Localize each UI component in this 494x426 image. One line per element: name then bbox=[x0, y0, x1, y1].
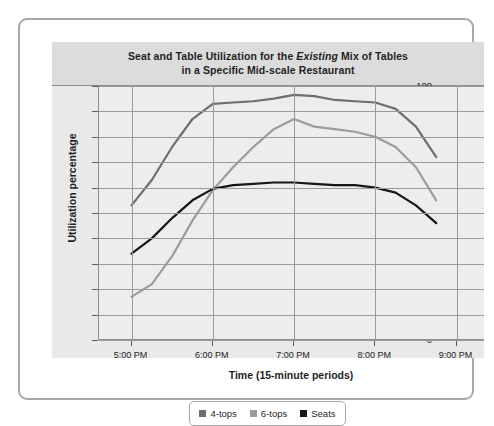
legend-item-seats[interactable]: Seats bbox=[300, 408, 335, 419]
gridline-horizontal bbox=[99, 111, 484, 112]
gridline-horizontal bbox=[99, 188, 484, 189]
y-axis-label: Utilization percentage bbox=[66, 108, 78, 268]
chart-frame: Seat and Table Utilization for the Exist… bbox=[18, 18, 474, 400]
chart-block: Seat and Table Utilization for the Exist… bbox=[52, 42, 484, 358]
gridline-horizontal bbox=[99, 340, 484, 341]
chart-title-part-emphasis: Existing bbox=[296, 50, 338, 62]
legend-item-6-tops[interactable]: 6-tops bbox=[250, 408, 287, 419]
chart-title-line-2: in a Specific Mid-scale Restaurant bbox=[52, 63, 484, 77]
gridline-vertical bbox=[132, 86, 133, 339]
gridline-horizontal bbox=[99, 213, 484, 214]
x-tick-label: 8:00 PM bbox=[339, 350, 409, 360]
gridline-horizontal bbox=[99, 289, 484, 290]
gridline-horizontal bbox=[99, 238, 484, 239]
legend-item-4-tops[interactable]: 4-tops bbox=[199, 408, 236, 419]
chart-title-part-post: Mix of Tables bbox=[338, 50, 408, 62]
x-tick-label: 9:00 PM bbox=[421, 350, 491, 360]
gridline-horizontal bbox=[99, 162, 484, 163]
gridline-vertical bbox=[457, 86, 458, 339]
gridline-vertical bbox=[294, 86, 295, 339]
legend-swatch-icon bbox=[300, 410, 307, 417]
chart-legend: 4-tops6-topsSeats bbox=[189, 401, 346, 426]
legend-label: 6-tops bbox=[261, 408, 287, 419]
gridline-vertical bbox=[213, 86, 214, 339]
series-line-6-tops bbox=[132, 119, 437, 297]
chart-title-part-pre: Seat and Table Utilization for the bbox=[128, 50, 296, 62]
x-axis-label: Time (15-minute periods) bbox=[98, 369, 484, 381]
legend-label: Seats bbox=[311, 408, 335, 419]
x-tick-label: 7:00 PM bbox=[258, 350, 328, 360]
plot-area bbox=[98, 86, 484, 340]
gridline-horizontal bbox=[99, 315, 484, 316]
x-tick-label: 6:00 PM bbox=[177, 350, 247, 360]
y-tick-mark bbox=[92, 340, 98, 341]
chart-title-line-1: Seat and Table Utilization for the Exist… bbox=[52, 42, 484, 63]
legend-label: 4-tops bbox=[210, 408, 236, 419]
gridline-horizontal bbox=[99, 137, 484, 138]
x-tick-label: 5:00 PM bbox=[96, 350, 166, 360]
gridline-horizontal bbox=[99, 264, 484, 265]
plot-wrapper: Utilization percentage 01020304050607080… bbox=[52, 86, 484, 358]
legend-swatch-icon bbox=[250, 410, 257, 417]
legend-swatch-icon bbox=[199, 410, 206, 417]
series-line-seats bbox=[132, 183, 437, 254]
gridline-horizontal bbox=[99, 86, 484, 87]
gridline-vertical bbox=[375, 86, 376, 339]
